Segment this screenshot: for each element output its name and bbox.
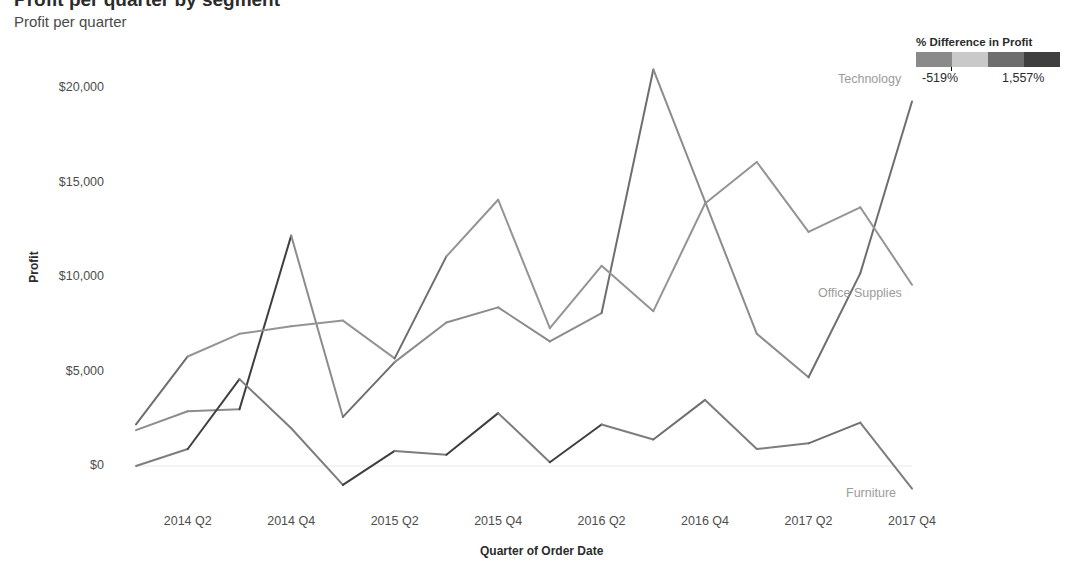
line-segment: [498, 200, 550, 328]
line-segment: [653, 69, 705, 201]
line-segment: [602, 266, 654, 311]
y-tick-label: $15,000: [18, 175, 104, 189]
line-segment: [860, 423, 912, 489]
visualization-canvas: Profit per quarter by segment Profit per…: [0, 0, 1082, 576]
page-title: Profit per quarter by segment: [14, 0, 280, 10]
line-segment: [653, 204, 705, 312]
line-segment: [550, 266, 602, 328]
line-segment: [705, 162, 757, 204]
line-segment: [239, 326, 291, 334]
legend-gradient-ramp[interactable]: [916, 52, 1060, 67]
y-tick-label: $10,000: [18, 269, 104, 283]
color-legend[interactable]: % Difference in Profit -519% 1,557%: [916, 36, 1066, 87]
line-segment: [705, 202, 757, 334]
line-segment: [446, 413, 498, 455]
series-lines[interactable]: [136, 69, 912, 488]
series-technology[interactable]: [136, 69, 912, 430]
line-segment: [705, 400, 757, 449]
line-segment: [291, 428, 343, 485]
y-tick-label: $20,000: [18, 80, 104, 94]
line-segment: [188, 334, 240, 357]
line-segment: [498, 413, 550, 462]
y-tick-label: $0: [18, 458, 104, 472]
line-segment: [446, 200, 498, 257]
line-segment: [809, 423, 861, 444]
line-segment: [757, 443, 809, 449]
x-tick-label: 2014 Q4: [251, 514, 331, 528]
legend-title: % Difference in Profit: [916, 36, 1066, 48]
x-tick-label: 2015 Q4: [458, 514, 538, 528]
legend-min-label: -519%: [922, 71, 958, 85]
line-segment: [188, 409, 240, 411]
line-segment: [602, 424, 654, 439]
x-axis-title: Quarter of Order Date: [480, 544, 603, 558]
line-segment: [136, 449, 188, 466]
legend-swatch-2[interactable]: [952, 52, 988, 67]
x-tick-label: 2016 Q4: [665, 514, 745, 528]
legend-swatch-3[interactable]: [988, 52, 1024, 67]
line-segment: [343, 321, 395, 359]
series-furniture[interactable]: [136, 379, 912, 489]
legend-swatch-1[interactable]: [916, 52, 952, 67]
series-label-office-supplies: Office Supplies: [818, 286, 902, 300]
legend-swatch-4[interactable]: [1024, 52, 1060, 67]
line-segment: [757, 162, 809, 232]
page-subtitle: Profit per quarter: [14, 10, 280, 33]
line-segment: [239, 236, 291, 410]
line-segment: [446, 307, 498, 322]
line-segment: [653, 400, 705, 440]
x-tick-label: 2017 Q2: [769, 514, 849, 528]
line-segment: [809, 207, 861, 232]
line-segment: [343, 451, 395, 485]
x-tick-label: 2015 Q2: [355, 514, 435, 528]
title-block: Profit per quarter by segment Profit per…: [14, 0, 280, 33]
line-segment: [188, 379, 240, 449]
x-tick-label: 2014 Q2: [148, 514, 228, 528]
x-tick-label: 2016 Q2: [562, 514, 642, 528]
legend-scale-labels: -519% 1,557%: [916, 71, 1066, 87]
line-segment: [395, 451, 447, 455]
y-tick-label: $5,000: [18, 364, 104, 378]
line-segment: [602, 69, 654, 313]
series-office-supplies[interactable]: [136, 162, 912, 424]
line-segment: [343, 362, 395, 417]
series-label-technology: Technology: [838, 72, 901, 86]
line-segment: [550, 424, 602, 462]
line-segment: [239, 379, 291, 428]
legend-max-label: 1,557%: [1002, 71, 1044, 85]
x-tick-label: 2017 Q4: [872, 514, 952, 528]
y-axis-title: Profit: [27, 227, 41, 307]
series-label-furniture: Furniture: [846, 486, 896, 500]
line-segment: [498, 307, 550, 341]
line-segment: [757, 334, 809, 377]
